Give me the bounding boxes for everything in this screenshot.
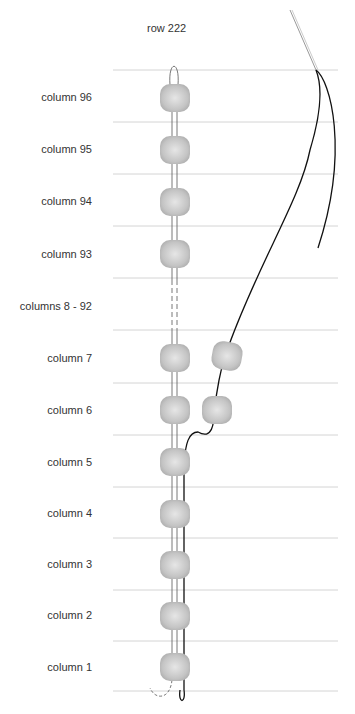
grid-lines — [113, 70, 338, 691]
needle-icon — [290, 10, 318, 70]
bead-diagram — [0, 0, 355, 714]
thread-black — [180, 70, 335, 701]
